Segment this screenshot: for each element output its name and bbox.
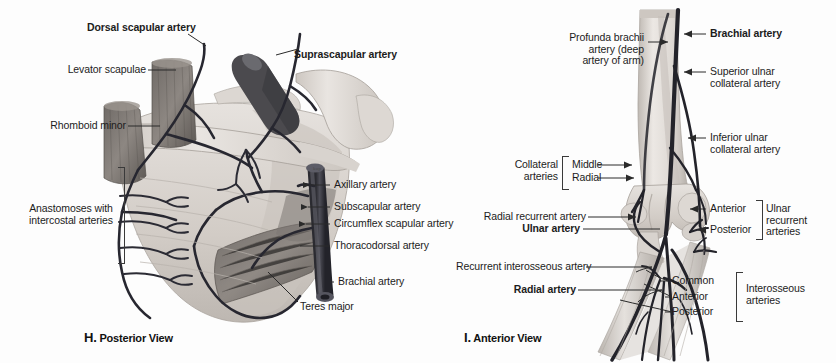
- label-collateral-arteries-group: Collateral arteries: [490, 159, 558, 182]
- label-levator-scapulae: Levator scapulae: [62, 64, 146, 76]
- anatomy-plate: Dorsal scapular artery Suprascapular art…: [0, 0, 836, 363]
- label-collateral-middle: Middle: [572, 159, 602, 171]
- caption-h-text: Posterior View: [97, 332, 173, 344]
- artist-signature: kup: [313, 166, 321, 171]
- label-subscapular-artery: Subscapular artery: [334, 201, 420, 213]
- label-anastomoses-intercostal: Anastomoses with intercostal arteries: [28, 203, 114, 226]
- caption-i-letter: I.: [464, 330, 471, 345]
- bracket-collateral-arteries: [562, 156, 569, 190]
- caption-figure-h: H. Posterior View: [84, 330, 173, 345]
- label-ulnar-recurrent-posterior: Posterior: [710, 224, 751, 236]
- label-interosseous-anterior: Anterior: [672, 291, 708, 303]
- label-profunda-brachii: Profunda brachii artery (deep artery of …: [548, 32, 644, 67]
- label-rhomboid-minor: Rhomboid minor: [36, 120, 126, 132]
- caption-h-letter: H.: [84, 330, 97, 345]
- label-ulnar-recurrent-anterior: Anterior: [710, 203, 746, 215]
- label-interosseous-group: Interosseous arteries: [746, 283, 805, 306]
- label-brachial-artery-i: Brachial artery: [710, 28, 782, 40]
- label-radial-recurrent-artery: Radial recurrent artery: [468, 211, 586, 223]
- caption-figure-i: I. Anterior View: [464, 330, 541, 345]
- label-circumflex-scapular-artery: Circumflex scapular artery: [334, 218, 453, 230]
- label-collateral-radial: Radial: [572, 172, 601, 184]
- label-radial-artery: Radial artery: [484, 284, 576, 296]
- label-recurrent-interosseous-artery: Recurrent interosseous artery: [456, 261, 584, 273]
- label-ulnar-recurrent-group: Ulnar recurrent arteries: [766, 203, 807, 238]
- bracket-ulnar-recurrent: [756, 200, 763, 240]
- label-interosseous-common: Common: [672, 275, 714, 287]
- caption-i-text: Anterior View: [471, 332, 542, 344]
- label-suprascapular-artery: Suprascapular artery: [294, 49, 397, 61]
- bracket-anastomoses: [118, 167, 125, 264]
- label-axillary-artery: Axillary artery: [334, 179, 396, 191]
- label-thoracodorsal-artery: Thoracodorsal artery: [334, 240, 429, 252]
- label-superior-ulnar-collateral: Superior ulnar collateral artery: [710, 66, 780, 89]
- label-ulnar-artery: Ulnar artery: [500, 223, 580, 235]
- label-teres-major: Teres major: [300, 301, 354, 313]
- label-inferior-ulnar-collateral: Inferior ulnar collateral artery: [710, 132, 780, 155]
- label-brachial-artery: Brachial artery: [338, 276, 404, 288]
- label-interosseous-posterior: Posterior: [672, 306, 713, 318]
- label-dorsal-scapular-artery: Dorsal scapular artery: [87, 22, 196, 34]
- bracket-interosseous: [736, 272, 743, 322]
